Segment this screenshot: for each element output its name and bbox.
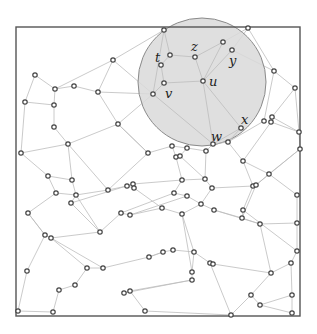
graph-node <box>295 221 299 225</box>
node-label-z: z <box>190 39 198 54</box>
graph-node <box>262 119 266 123</box>
graph-node <box>128 289 132 293</box>
graph-edge <box>173 250 194 252</box>
graph-node <box>203 177 207 181</box>
graph-node <box>289 261 293 265</box>
graph-edge <box>133 180 182 184</box>
graph-node <box>210 186 214 190</box>
graph-node <box>221 40 225 44</box>
graph-node <box>146 151 150 155</box>
graph-edge <box>192 252 194 272</box>
graph-node <box>190 278 194 282</box>
graph-edge <box>75 268 87 285</box>
graph-node <box>297 130 301 134</box>
graph-node <box>101 266 105 270</box>
graph-node <box>185 194 189 198</box>
graph-node <box>72 84 76 88</box>
graph-edge <box>251 273 271 295</box>
graph-edge <box>103 257 149 268</box>
graph-node <box>49 236 53 240</box>
graph-node <box>211 262 215 266</box>
graph-node <box>132 186 136 190</box>
graph-node <box>52 125 56 129</box>
graph-edge <box>269 174 297 195</box>
graph-edge <box>21 102 25 153</box>
graph-node <box>168 53 172 57</box>
graph-edge <box>260 295 292 305</box>
graph-edge <box>51 238 87 268</box>
graph-edge <box>21 153 48 176</box>
graph-node <box>193 55 197 59</box>
graph-node <box>199 202 203 206</box>
graph-node <box>258 303 262 307</box>
graph-edge <box>68 144 72 180</box>
graph-edge <box>76 195 100 232</box>
graph-edge <box>71 203 100 232</box>
graph-edge <box>71 184 133 203</box>
graph-node <box>26 211 30 215</box>
graph-edge <box>56 193 76 195</box>
graph-edge <box>260 305 292 313</box>
graph-edge <box>243 210 297 251</box>
graph-node <box>46 174 50 178</box>
graph-edge <box>55 60 113 89</box>
graph-node <box>295 249 299 253</box>
graph-edge <box>242 185 256 218</box>
graph-edge <box>18 271 27 311</box>
graph-edge <box>25 75 35 102</box>
graph-edge <box>54 127 68 144</box>
graph-edge <box>210 263 231 315</box>
graph-node <box>267 172 271 176</box>
graph-node <box>172 191 176 195</box>
graph-node <box>298 147 302 151</box>
graph-node <box>230 48 234 52</box>
graph-node <box>240 216 244 220</box>
graph-node <box>269 120 273 124</box>
graph-edge <box>260 223 297 224</box>
graph-edge <box>260 224 271 273</box>
graph-node <box>249 293 253 297</box>
node-label-t: t <box>155 50 161 65</box>
graph-node <box>53 87 57 91</box>
graph-edge <box>100 213 121 232</box>
graph-node <box>43 233 47 237</box>
graph-edge <box>130 208 162 215</box>
graph-node <box>85 266 89 270</box>
graph-node <box>161 250 165 254</box>
graph-node <box>70 178 74 182</box>
geometric-graph-diagram: tzyuvxw <box>0 0 317 334</box>
graph-node <box>295 193 299 197</box>
graph-node <box>162 81 166 85</box>
node-label-x: x <box>241 112 249 127</box>
graph-node <box>160 206 164 210</box>
graph-node <box>270 115 274 119</box>
graph-node <box>229 313 233 317</box>
graph-node <box>98 230 102 234</box>
graph-edge <box>272 117 299 132</box>
graph-edge <box>187 148 206 151</box>
graph-edge <box>28 193 56 213</box>
graph-edge <box>295 88 299 132</box>
graph-node <box>272 69 276 73</box>
graph-edge <box>148 146 172 153</box>
node-label-v: v <box>165 86 173 101</box>
graph-edge <box>21 144 68 153</box>
graph-node <box>147 255 151 259</box>
graph-node <box>119 211 123 215</box>
graph-edge <box>76 190 108 195</box>
graph-edge <box>28 213 45 235</box>
graph-node <box>241 159 245 163</box>
graph-edge <box>18 311 53 312</box>
graph-node <box>128 213 132 217</box>
graph-node <box>201 79 205 83</box>
graph-edge <box>231 295 251 315</box>
graph-node <box>171 248 175 252</box>
graph-node <box>180 178 184 182</box>
graph-edge <box>291 263 292 295</box>
graph-edge <box>68 124 118 144</box>
graph-node <box>69 201 73 205</box>
graph-node <box>290 311 294 315</box>
graph-node <box>241 208 245 212</box>
graph-node <box>178 154 182 158</box>
graph-edge <box>212 186 253 188</box>
